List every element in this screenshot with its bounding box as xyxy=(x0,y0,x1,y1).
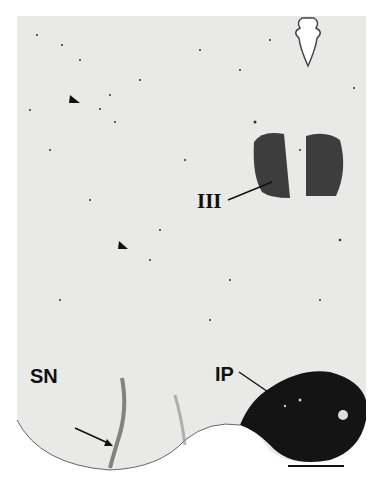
label-substantia-nigra: SN xyxy=(30,365,58,388)
fiber-tract xyxy=(110,378,124,468)
cerebral-aqueduct xyxy=(296,18,321,66)
label-interpeduncular: IP xyxy=(215,363,234,386)
oculomotor-nucleus xyxy=(254,133,344,198)
label-oculomotor: III xyxy=(197,189,222,214)
arrowhead-marker xyxy=(69,95,80,103)
arrowhead-marker xyxy=(118,241,128,249)
micrograph-overlay xyxy=(0,0,384,487)
arrow-marker xyxy=(75,428,113,446)
